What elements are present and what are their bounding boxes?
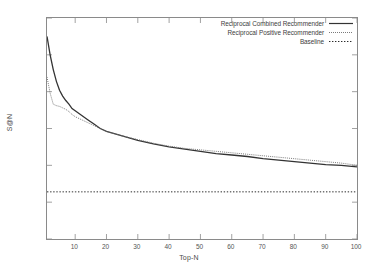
x-tick-label: 70: [252, 243, 272, 250]
legend-label: Baseline: [300, 38, 328, 45]
x-tick-label: 80: [283, 243, 303, 250]
x-tick-label: 60: [221, 243, 241, 250]
x-tick-label: 50: [189, 243, 209, 250]
x-tick-label: 20: [95, 243, 115, 250]
x-tick-label: 30: [127, 243, 147, 250]
legend-item: Reciprocal Positive Recommender: [196, 28, 354, 37]
x-tick-label: 90: [315, 243, 335, 250]
legend-label: Reciprocal Positive Recommender: [228, 29, 328, 36]
x-tick-label: 10: [64, 243, 84, 250]
legend-line-sample-solid: [328, 20, 354, 27]
chart-figure: 40% 35% 30% 25% 20% 15% 10% S@N 10203040…: [0, 0, 378, 272]
axis-tick-marks: [47, 18, 357, 239]
data-series-layer: [47, 36, 357, 191]
plot-area: [46, 17, 358, 240]
legend-item: Reciprocal Combined Recommender: [196, 19, 354, 28]
y-axis-title: S@N: [6, 103, 13, 143]
legend-label: Reciprocal Combined Recommender: [221, 20, 328, 27]
plot-canvas: [47, 18, 357, 239]
legend-line-sample-dotted-fine: [328, 29, 354, 36]
x-axis-title: Top-N: [0, 254, 378, 261]
x-tick-label: 40: [158, 243, 178, 250]
series-line-0: [47, 36, 357, 166]
legend-item: Baseline: [196, 37, 354, 46]
x-tick-label: 100: [346, 243, 366, 250]
chart-legend: Reciprocal Combined Recommender Reciproc…: [196, 18, 354, 47]
legend-line-sample-dotted-coarse: [328, 38, 354, 45]
